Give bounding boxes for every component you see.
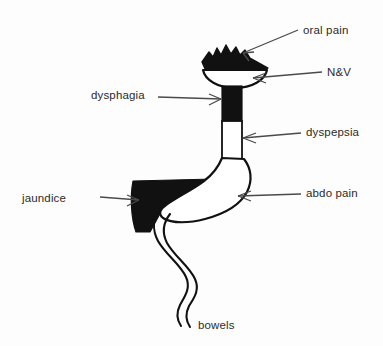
mouth-cap-shape	[202, 45, 268, 71]
gi-symptom-diagram: oral pain N&V dysphagia dyspepsia jaundi…	[0, 0, 383, 346]
label-nausea-vomiting: N&V	[327, 66, 351, 79]
label-jaundice: jaundice	[22, 192, 66, 205]
bowel-outer-line	[154, 208, 188, 326]
dysphagia-leader	[158, 94, 221, 105]
abdo-pain-leader	[238, 191, 301, 201]
label-dysphagia: dysphagia	[91, 89, 145, 102]
dyspepsia-leader	[243, 133, 301, 143]
nausea-vomiting-leader	[253, 72, 322, 83]
oral-pain-leader	[243, 30, 298, 61]
bowel-inner-line	[164, 214, 197, 327]
label-dyspepsia: dyspepsia	[306, 126, 359, 139]
label-abdo-pain: abdo pain	[306, 187, 358, 200]
label-oral-pain: oral pain	[303, 24, 348, 37]
upper-esophagus-shape	[222, 86, 242, 122]
lower-esophagus-shape	[222, 121, 242, 159]
label-bowels: bowels	[198, 319, 235, 332]
gi-tract-illustration	[0, 0, 383, 346]
